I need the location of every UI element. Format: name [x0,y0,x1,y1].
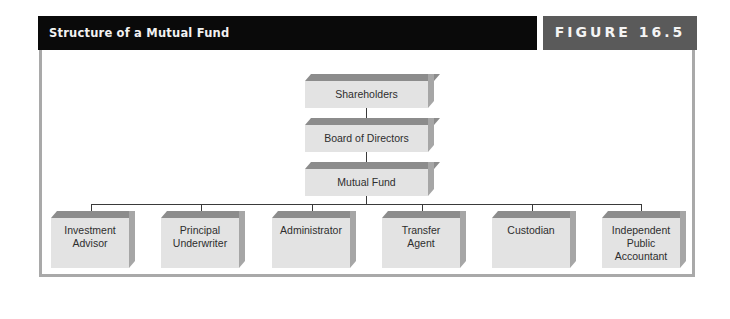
node-independent-public-accountant: IndependentPublicAccountant [602,211,686,270]
node-label: InvestmentAdvisor [64,224,115,250]
node-transfer-agent: TransferAgent [382,211,466,270]
node-label: TransferAgent [402,224,441,250]
connector-horizontal-bus [91,204,642,205]
node-custodian: Custodian [492,211,576,270]
figure-title: Structure of a Mutual Fund [49,26,229,40]
node-label: Board of Directors [324,132,409,145]
node-principal-underwriter: PrincipalUnderwriter [161,211,245,270]
node-shareholders: Shareholders [305,74,440,110]
node-label: Administrator [280,224,342,237]
node-investment-advisor: InvestmentAdvisor [51,211,135,270]
figure-title-bar: Structure of a Mutual Fund [38,16,537,50]
figure-number: FIGURE 16.5 [543,24,697,40]
node-mutual-fund: Mutual Fund [305,162,440,198]
node-label: Custodian [507,224,554,237]
node-board-of-directors: Board of Directors [305,118,440,154]
node-label: PrincipalUnderwriter [173,224,227,250]
node-label: Mutual Fund [337,176,395,189]
node-administrator: Administrator [272,211,356,270]
figure-number-badge: FIGURE 16.5 [543,16,697,50]
node-label: Shareholders [335,88,397,101]
node-label: IndependentPublicAccountant [612,224,670,263]
